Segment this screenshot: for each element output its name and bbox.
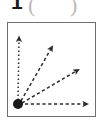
caption-strip: 1 ( ): [0, 0, 104, 21]
plot-frame: [7, 22, 96, 117]
caption-index-glyph: 1: [11, 0, 22, 12]
figure-root: 1 ( ): [0, 0, 104, 121]
caption-open-paren: (: [28, 0, 35, 15]
caption-close-paren: ): [70, 0, 77, 15]
